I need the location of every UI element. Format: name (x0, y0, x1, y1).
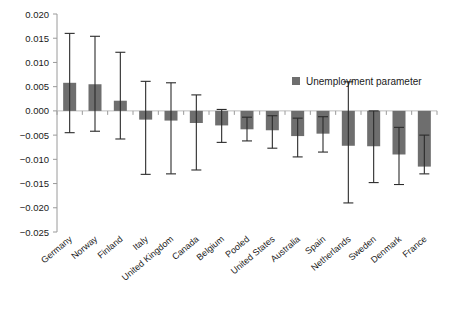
legend-swatch-unemployment-parameter (292, 77, 300, 85)
y-axis-tick-label: 0.005 (25, 81, 49, 92)
chart-legend: Unemployment parameter (292, 76, 422, 87)
y-axis-tick-label: −0.025 (20, 227, 49, 238)
y-axis-tick-label: 0.010 (25, 57, 49, 68)
y-axis-tick-label: −0.020 (20, 202, 49, 213)
legend-label-unemployment-parameter: Unemployment parameter (306, 76, 422, 87)
chart-figure: 0.0200.0150.0100.0050.000−0.005−0.010−0.… (0, 0, 473, 310)
y-axis-tick-label: −0.005 (20, 130, 49, 141)
y-axis-tick-label: 0.020 (25, 9, 49, 20)
y-axis-tick-label: −0.015 (20, 178, 49, 189)
y-axis-tick-label: 0.000 (25, 105, 49, 116)
y-axis-tick-label: −0.010 (20, 154, 49, 165)
y-axis-tick-label: 0.015 (25, 33, 49, 44)
